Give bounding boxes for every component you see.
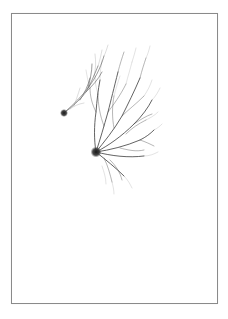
small-neuron — [60, 45, 108, 117]
neuron-drawing — [0, 0, 228, 319]
